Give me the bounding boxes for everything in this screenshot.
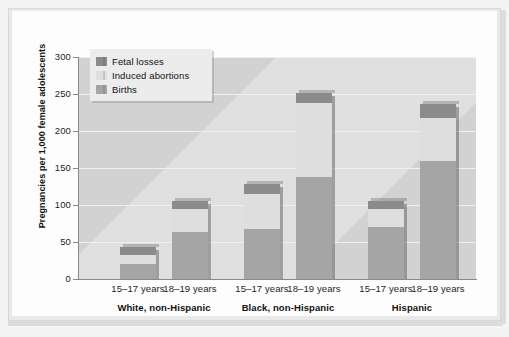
bar-top-shadow [423, 101, 459, 104]
bar-segment-induced-abortions [368, 209, 404, 227]
bar-segment-births [244, 229, 280, 279]
y-axis-line [78, 57, 79, 280]
x-axis-tick-label: 18–19 years [155, 283, 225, 294]
bar-segment-fetal-losses [172, 201, 208, 208]
y-axis-tick-label: 300 [31, 51, 71, 62]
legend-swatch-fetal-losses [96, 57, 107, 66]
legend-item-births: Births [96, 82, 206, 96]
chart-card: Pregnancies per 1,000 female adolescents… [12, 11, 497, 316]
legend: Fetal losses Induced abortions Births [90, 49, 212, 101]
bar-segment-induced-abortions [172, 209, 208, 233]
y-axis-tick-label: 150 [31, 162, 71, 173]
bar-segment-induced-abortions [420, 118, 456, 162]
y-axis-tick-label: 200 [31, 125, 71, 136]
bar-segment-fetal-losses [368, 201, 404, 209]
bar-shadow [332, 96, 335, 279]
legend-swatch-induced-abortions [96, 71, 107, 80]
bar-hispanic-15-17 [368, 201, 404, 279]
x-axis-line [78, 279, 477, 280]
bar-black-15-17 [244, 184, 280, 279]
figure: Pregnancies per 1,000 female adolescents… [0, 0, 509, 337]
bar-segment-births [296, 177, 332, 279]
legend-label-fetal-losses: Fetal losses [112, 56, 164, 67]
y-axis-tick-label: 100 [31, 199, 71, 210]
bar-segment-induced-abortions [296, 103, 332, 177]
bar-hispanic-18-19 [420, 104, 456, 279]
legend-label-births: Births [112, 84, 137, 95]
legend-label-induced-abortions: Induced abortions [112, 70, 189, 81]
bar-segment-births [368, 227, 404, 279]
legend-swatch-births [96, 85, 107, 94]
x-axis-group-label: Hispanic [342, 302, 482, 313]
bar-shadow [280, 187, 283, 279]
bar-segment-births [420, 161, 456, 279]
bar-segment-births [172, 232, 208, 279]
bar-shadow [156, 250, 159, 279]
legend-item-fetal-losses: Fetal losses [96, 54, 206, 68]
x-axis-tick-label: 18–19 years [403, 283, 473, 294]
bar-top-shadow [247, 181, 283, 184]
y-axis-tick-label: 250 [31, 88, 71, 99]
gridline [78, 168, 476, 169]
bar-segment-fetal-losses [420, 104, 456, 118]
bar-segment-induced-abortions [120, 255, 156, 265]
bar-segment-induced-abortions [244, 194, 280, 230]
legend-item-induced-abortions: Induced abortions [96, 68, 206, 82]
bar-segment-fetal-losses [296, 93, 332, 103]
bar-white-18-19 [172, 201, 208, 279]
x-axis-tick-label: 18–19 years [279, 283, 349, 294]
x-axis-group-label: White, non-Hispanic [94, 302, 234, 313]
y-axis-tick-label: 50 [31, 236, 71, 247]
bar-top-shadow [123, 244, 159, 247]
gridline [78, 131, 476, 132]
bar-top-shadow [371, 198, 407, 201]
bar-shadow [456, 107, 459, 279]
bar-top-shadow [175, 198, 211, 201]
figure-right-shadow [501, 10, 506, 324]
bar-top-shadow [299, 90, 335, 93]
bar-segment-births [120, 264, 156, 279]
bar-segment-fetal-losses [120, 247, 156, 254]
bar-shadow [404, 204, 407, 279]
figure-bottom-shadow [8, 321, 503, 326]
x-axis-group-label: Black, non-Hispanic [218, 302, 358, 313]
y-axis-tick-label: 0 [31, 273, 71, 284]
bar-segment-fetal-losses [244, 184, 280, 194]
bar-white-15-17 [120, 247, 156, 279]
bar-black-18-19 [296, 93, 332, 279]
bar-shadow [208, 204, 211, 279]
